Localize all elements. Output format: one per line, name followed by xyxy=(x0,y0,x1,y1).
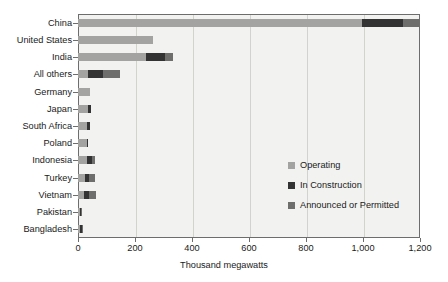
bar-segment xyxy=(103,70,120,78)
x-axis-label: 1,000 xyxy=(352,243,375,253)
y-axis-label: Vietnam xyxy=(0,190,72,200)
y-axis-label: All others xyxy=(0,69,72,79)
x-axis-label: 0 xyxy=(75,243,80,253)
y-axis-label: China xyxy=(0,18,72,28)
x-axis-tick xyxy=(78,238,79,242)
x-axis-tick xyxy=(249,238,250,242)
bar-segment xyxy=(89,191,97,199)
legend-label: Operating xyxy=(300,160,340,170)
bar-segment xyxy=(78,139,87,147)
y-axis-label: Japan xyxy=(0,104,72,114)
bar-segment xyxy=(78,19,362,27)
bar-segment xyxy=(78,36,153,44)
y-axis-label: Indonesia xyxy=(0,155,72,165)
bar-segment xyxy=(88,105,91,113)
bar-segment xyxy=(78,174,85,182)
y-axis-label: Turkey xyxy=(0,173,72,183)
x-axis-tick xyxy=(306,238,307,242)
y-axis-label: Bangladesh xyxy=(0,224,72,234)
chart-legend: OperatingIn ConstructionAnnounced or Per… xyxy=(288,160,399,220)
x-axis-label: 400 xyxy=(184,243,199,253)
bar-segment xyxy=(403,19,420,27)
bar-segment xyxy=(362,19,403,27)
x-axis-label: 200 xyxy=(127,243,142,253)
bar-segment xyxy=(78,156,87,164)
bar-segment xyxy=(92,156,95,164)
bar-segment xyxy=(88,70,103,78)
x-axis: 02004006008001,0001,200 xyxy=(78,238,420,258)
bar-segment xyxy=(78,88,90,96)
x-axis-label: 800 xyxy=(298,243,313,253)
y-axis-label: Germany xyxy=(0,87,72,97)
x-axis-tick xyxy=(192,238,193,242)
legend-label: Announced or Permitted xyxy=(300,200,399,210)
y-axis-label: India xyxy=(0,52,72,62)
x-axis-title: Thousand megawatts xyxy=(0,260,448,270)
x-axis-label: 600 xyxy=(241,243,256,253)
x-axis-label: 1,200 xyxy=(409,243,432,253)
legend-item[interactable]: Announced or Permitted xyxy=(288,200,399,210)
bar-segment xyxy=(78,53,146,61)
legend-item[interactable]: In Construction xyxy=(288,180,399,190)
bar-segment xyxy=(81,208,82,216)
bar-segment xyxy=(78,70,88,78)
bar-segment xyxy=(146,53,165,61)
bar-segment xyxy=(87,122,90,130)
legend-swatch-icon xyxy=(288,202,295,209)
bar-segment xyxy=(165,53,173,61)
x-axis-tick xyxy=(363,238,364,242)
y-axis: ChinaUnited StatesIndiaAll othersGermany… xyxy=(0,14,72,238)
legend-swatch-icon xyxy=(288,182,295,189)
y-axis-label: South Africa xyxy=(0,121,72,131)
x-axis-tick xyxy=(420,238,421,242)
legend-label: In Construction xyxy=(300,180,362,190)
bar-segment xyxy=(78,105,88,113)
bar-segment xyxy=(87,139,88,147)
legend-item[interactable]: Operating xyxy=(288,160,399,170)
y-axis-label: United States xyxy=(0,35,72,45)
y-axis-label: Pakistan xyxy=(0,207,72,217)
legend-swatch-icon xyxy=(288,162,295,169)
chart-page: ChinaUnited StatesIndiaAll othersGermany… xyxy=(0,0,448,282)
bar-segment xyxy=(82,225,83,233)
bar-segment xyxy=(78,122,87,130)
bar-segment xyxy=(89,174,95,182)
y-axis-label: Poland xyxy=(0,138,72,148)
x-axis-tick xyxy=(135,238,136,242)
